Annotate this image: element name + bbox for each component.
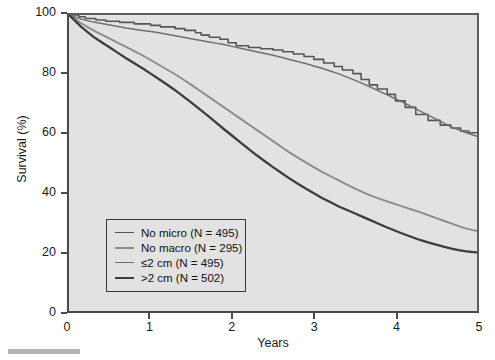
- y-tick-label-100: 100: [22, 5, 56, 19]
- curve-no-macro: [69, 15, 477, 231]
- y-tick-label-40: 40: [22, 185, 56, 199]
- x-tick-mark-3: [313, 313, 315, 319]
- x-tick-label-0: 0: [52, 320, 82, 334]
- legend-line-swatch: [115, 232, 134, 233]
- survival-curve-figure: Survival (%) 020406080100 012345 Years N…: [0, 0, 495, 360]
- legend-item-label: No macro (N = 295): [141, 242, 242, 254]
- x-tick-label-5: 5: [464, 320, 494, 334]
- x-tick-label-4: 4: [382, 320, 412, 334]
- x-tick-label-1: 1: [134, 320, 164, 334]
- legend-item: >2 cm (N = 502): [115, 270, 237, 285]
- legend-item: No micro (N = 495): [115, 225, 237, 240]
- y-tick-label-20: 20: [22, 245, 56, 259]
- scan-edge-artifact: [8, 349, 80, 354]
- legend-line-swatch: [115, 262, 134, 263]
- x-axis-title: Years: [67, 336, 479, 350]
- x-tick-mark-4: [396, 313, 398, 319]
- legend: No micro (N = 495)No macro (N = 295)≤2 c…: [106, 219, 246, 292]
- legend-line-swatch: [115, 247, 134, 249]
- x-tick-mark-1: [148, 313, 150, 319]
- curve-no-micro: [69, 15, 477, 133]
- legend-line-swatch: [115, 277, 134, 279]
- legend-item-label: No micro (N = 495): [141, 227, 238, 239]
- curve--2-cm: [69, 15, 477, 136]
- legend-item-label: >2 cm (N = 502): [141, 272, 224, 284]
- y-tick-label-0: 0: [22, 305, 56, 319]
- legend-item: ≤2 cm (N = 495): [115, 255, 237, 270]
- x-tick-mark-2: [231, 313, 233, 319]
- legend-item: No macro (N = 295): [115, 240, 237, 255]
- x-tick-label-3: 3: [299, 320, 329, 334]
- x-tick-label-2: 2: [217, 320, 247, 334]
- y-tick-label-80: 80: [22, 65, 56, 79]
- legend-item-label: ≤2 cm (N = 495): [141, 257, 224, 269]
- y-tick-label-60: 60: [22, 125, 56, 139]
